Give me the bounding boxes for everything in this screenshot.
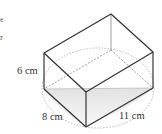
depth-label: 8 cm	[42, 111, 63, 122]
width-label: 11 cm	[119, 110, 145, 121]
cuboid-diagram: 6 cm 8 cm 11 cm	[0, 0, 162, 134]
height-label: 6 cm	[17, 65, 38, 76]
hidden-edges	[44, 14, 153, 89]
